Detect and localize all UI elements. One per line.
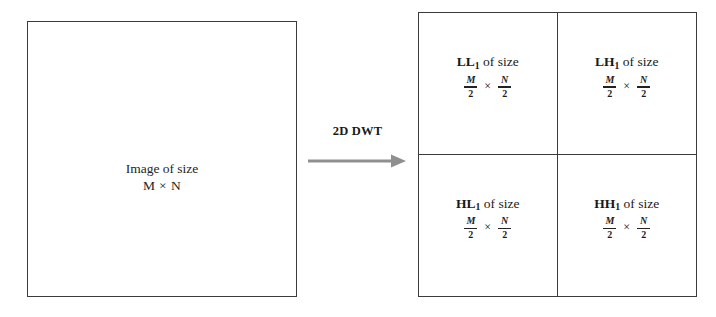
subband-quadrant-hh: HH1 of size M 2 × N 2 <box>558 155 697 297</box>
subband-quadrant-lh: LH1 of size M 2 × N 2 <box>558 13 697 155</box>
subband-band-lh: LH1 <box>595 54 619 69</box>
times-symbol: × <box>623 221 630 235</box>
fraction-n-over-2-ll: N 2 <box>498 75 511 99</box>
diagram-canvas: Image of size M × N 2D DWT LL1 of size M <box>0 0 716 317</box>
subband-of-size-ll: of size <box>480 54 519 69</box>
fraction-n-over-2-hh: N 2 <box>637 216 650 240</box>
subband-content-hh: HH1 of size M 2 × N 2 <box>594 197 659 241</box>
subband-of-size-hl: of size <box>480 196 519 211</box>
subband-size-expression-lh: M 2 × N 2 <box>595 75 658 99</box>
subband-content-hl: HL1 of size M 2 × N 2 <box>456 197 519 241</box>
subband-quadrant-ll: LL1 of size M 2 × N 2 <box>419 13 558 155</box>
transform-group: 2D DWT <box>305 124 410 174</box>
times-symbol: × <box>484 221 491 235</box>
subband-content-lh: LH1 of size M 2 × N 2 <box>595 55 658 99</box>
subband-title-ll: LL1 of size <box>457 55 519 70</box>
subband-band-hh: HH1 <box>594 196 620 211</box>
subband-title-hl: HL1 of size <box>456 197 519 212</box>
subband-size-expression-hh: M 2 × N 2 <box>594 216 659 240</box>
subband-band-ll: LL1 <box>457 54 480 69</box>
source-image-label-line2: M × N <box>28 177 296 194</box>
right-arrow-icon <box>307 152 407 170</box>
subband-content-ll: LL1 of size M 2 × N 2 <box>457 55 519 99</box>
subband-size-expression-ll: M 2 × N 2 <box>457 75 519 99</box>
times-symbol: × <box>484 80 491 94</box>
subband-box: LL1 of size M 2 × N 2 <box>418 12 697 297</box>
fraction-n-over-2-lh: N 2 <box>637 75 650 99</box>
fraction-m-over-2-lh: M 2 <box>603 75 616 99</box>
fraction-m-over-2-hl: M 2 <box>464 216 477 240</box>
subband-title-hh: HH1 of size <box>594 197 659 212</box>
subband-band-hl: HL1 <box>456 196 480 211</box>
subband-quadrant-hl: HL1 of size M 2 × N 2 <box>419 155 558 297</box>
subband-of-size-hh: of size <box>620 196 659 211</box>
source-image-box: Image of size M × N <box>27 21 297 297</box>
source-image-label: Image of size M × N <box>28 160 296 195</box>
fraction-m-over-2-hh: M 2 <box>603 216 616 240</box>
fraction-n-over-2-hl: N 2 <box>498 216 511 240</box>
subband-title-lh: LH1 of size <box>595 55 658 70</box>
transform-label: 2D DWT <box>305 124 410 139</box>
subband-size-expression-hl: M 2 × N 2 <box>456 216 519 240</box>
subband-of-size-lh: of size <box>619 54 658 69</box>
source-image-label-line1: Image of size <box>126 161 199 176</box>
fraction-m-over-2-ll: M 2 <box>464 75 477 99</box>
times-symbol: × <box>623 80 630 94</box>
